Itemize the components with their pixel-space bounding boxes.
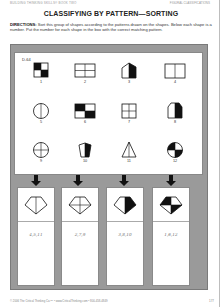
shape-number: 3	[117, 80, 141, 84]
footer-copyright: © 2006 The Critical Thinking Co.™ • www.…	[10, 299, 108, 303]
category-box-quadrants: 2,7,9	[61, 187, 99, 286]
diamond-halves-icon	[23, 194, 49, 216]
shape-number: 2	[73, 80, 97, 84]
shape-number: 6	[73, 120, 97, 124]
shape-number: 9	[29, 159, 53, 163]
directions: DIRECTIONS: Sort this group of shapes ac…	[10, 22, 212, 32]
running-header-left: BUILDING THINKING SKILLS® BOOK TWO	[10, 1, 77, 5]
shape-number: 11	[117, 159, 141, 163]
shape-7-square-quadrants	[117, 102, 141, 122]
diamond-quadrants-icon	[67, 194, 93, 216]
shape-8-octagon-half-shaded	[163, 102, 187, 122]
shape-number: 1	[29, 80, 53, 84]
shape-6-rectangle-checkered	[73, 102, 97, 122]
shape-number: 7	[117, 120, 141, 124]
shape-number: 5	[29, 120, 53, 124]
shape-10-pentagon-half-shaded	[73, 141, 97, 161]
shape-12-circle-checkered	[163, 141, 187, 161]
category-box-half-shaded: 3,8,10	[106, 187, 144, 286]
shapes-panel: D-64 1 2 3 4 5 6	[14, 52, 203, 175]
directions-text: Sort this group of shapes according to t…	[10, 22, 212, 32]
answer-field[interactable]: 1,6,12	[153, 232, 189, 237]
shape-9-circle-quadrants	[29, 141, 53, 161]
answer-field[interactable]: 4,5,11	[18, 232, 54, 237]
shape-1-square-checkered	[29, 62, 53, 82]
down-arrow-icon	[30, 175, 42, 187]
shape-5-circle-halves	[29, 102, 53, 122]
running-header-right: FIGURAL CLASSIFICATIONS	[170, 1, 210, 5]
shape-4-rectangle-halves	[163, 62, 187, 82]
answer-field[interactable]: 3,8,10	[107, 232, 143, 237]
page-edge	[219, 0, 220, 307]
category-box-halves: 4,5,11	[17, 187, 55, 286]
shape-number: 10	[73, 159, 97, 163]
shape-number: 12	[163, 159, 187, 163]
down-arrow-icon	[72, 175, 84, 187]
diamond-checkered-icon	[158, 194, 184, 216]
shape-3-house-half-shaded	[117, 62, 141, 82]
down-arrow-icon	[118, 175, 130, 187]
shape-2-rectangle-quadrants	[73, 62, 97, 82]
diamond-half-shaded-icon	[112, 194, 138, 216]
shape-11-triangle-halves	[117, 141, 141, 161]
page-title: CLASSIFYING BY PATTERN—SORTING	[0, 10, 222, 17]
page-number: 177	[209, 299, 214, 303]
down-arrow-icon	[165, 175, 177, 187]
shape-number: 8	[163, 120, 187, 124]
answer-field[interactable]: 2,7,9	[62, 232, 98, 237]
shape-number: 4	[163, 80, 187, 84]
category-box-checkered: 1,6,12	[152, 187, 190, 286]
